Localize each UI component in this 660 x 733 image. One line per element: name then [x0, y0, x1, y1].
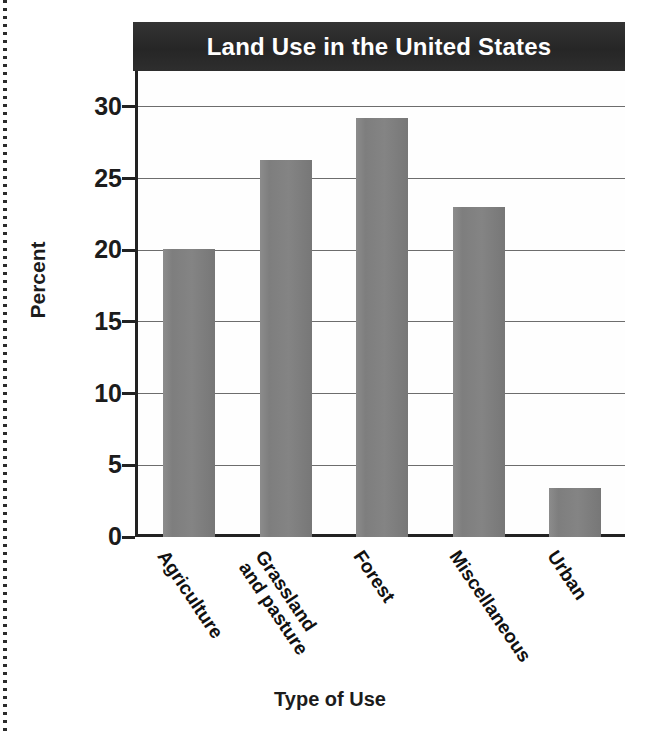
y-tick-10: [122, 392, 135, 395]
chart-title: Land Use in the United States: [207, 33, 552, 61]
y-tick-25: [122, 177, 135, 180]
plot-area: [138, 71, 625, 537]
gridline-30: [138, 106, 625, 107]
x-axis-label-urban: Urban: [543, 547, 590, 604]
y-tick-30: [122, 105, 135, 108]
x-axis-label-forest: Forest: [349, 547, 398, 606]
bar-agriculture: [163, 249, 215, 537]
y-tick-label-15: 15: [94, 309, 122, 334]
x-axis-title: Type of Use: [0, 688, 660, 711]
y-tick-label-25: 25: [94, 166, 122, 191]
bar-forest: [356, 118, 408, 537]
x-axis-label-agriculture: Agriculture: [153, 547, 226, 642]
y-axis-title: Percent: [26, 220, 50, 340]
y-tick-label-30: 30: [94, 94, 122, 119]
bar-miscellaneous: [453, 207, 505, 537]
bar-grassland-and-pasture: [260, 160, 312, 537]
bar-urban: [549, 488, 601, 537]
y-tick-15: [122, 320, 135, 323]
x-axis-label-grassland-and-pasture: Grassland and pasture: [235, 547, 328, 659]
y-tick-20: [122, 249, 135, 252]
x-axis-label-miscellaneous: Miscellaneous: [445, 547, 534, 666]
y-axis-tick-labels: 051015202530: [60, 71, 122, 537]
bar-chart-figure: Land Use in the United States 0510152025…: [0, 0, 660, 733]
y-tick-label-5: 5: [108, 452, 122, 477]
chart-title-banner: Land Use in the United States: [133, 22, 625, 71]
y-tick-5: [122, 464, 135, 467]
y-tick-0: [122, 536, 135, 539]
y-tick-label-0: 0: [108, 524, 122, 549]
y-tick-label-10: 10: [94, 381, 122, 406]
y-tick-label-20: 20: [94, 237, 122, 262]
